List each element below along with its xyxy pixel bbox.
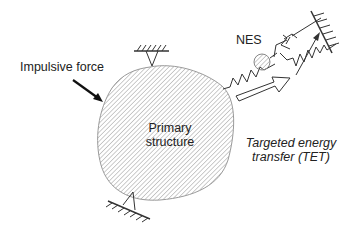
primary-structure-label: Primary structure <box>140 121 200 149</box>
tet-label: Targeted energy transfer (TET) <box>236 136 346 164</box>
nes-mass <box>254 54 270 70</box>
impulsive-force-label: Impulsive force <box>20 60 104 74</box>
nes-label: NES <box>236 33 262 47</box>
primary-structure-label-line1: Primary <box>140 121 200 135</box>
diagram-canvas <box>0 0 355 233</box>
impulsive-force-arrow <box>73 80 103 102</box>
primary-structure-label-line2: structure <box>140 135 200 149</box>
tet-arrow <box>236 77 290 101</box>
top-ground-support <box>134 45 169 66</box>
tet-label-line2: transfer (TET) <box>236 150 346 164</box>
tet-label-line1: Targeted energy <box>236 136 346 150</box>
